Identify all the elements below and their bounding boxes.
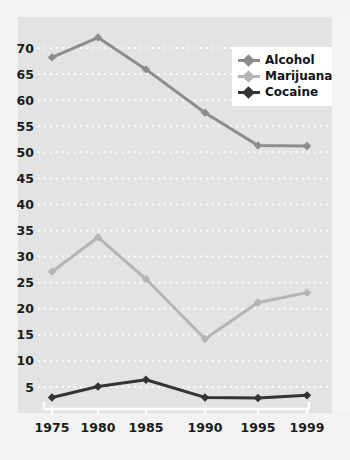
x-tick-1999: 1999 xyxy=(290,420,325,435)
y-tick-40: 40 xyxy=(17,197,35,212)
legend-label: Alcohol xyxy=(265,54,315,67)
data-point-cocaine-1985 xyxy=(142,375,150,383)
axis-lines xyxy=(44,402,309,414)
series-line-cocaine xyxy=(52,380,307,398)
legend-item-cocaine[interactable]: Cocaine xyxy=(232,84,332,100)
data-point-cocaine-1980 xyxy=(94,382,102,390)
data-point-alcohol-1999 xyxy=(303,142,311,150)
x-tick-1990: 1990 xyxy=(188,420,223,435)
y-tick-60: 60 xyxy=(17,93,35,108)
y-tick-35: 35 xyxy=(17,223,34,238)
data-point-alcohol-1975 xyxy=(48,53,56,61)
x-tick-1985: 1985 xyxy=(129,420,164,435)
y-tick-70: 70 xyxy=(17,41,35,56)
legend-marker-icon-marijuana xyxy=(238,70,260,82)
x-axis-tick-labels: 197519801985199019951999 xyxy=(35,420,325,435)
legend-marker-icon-alcohol xyxy=(238,54,260,66)
y-tick-55: 55 xyxy=(17,119,34,134)
y-tick-20: 20 xyxy=(17,301,35,316)
y-tick-45: 45 xyxy=(17,171,34,186)
series-line-marijuana xyxy=(52,237,307,339)
chart-legend: AlcoholMarijuanaCocaine xyxy=(232,47,332,106)
x-tick-1980: 1980 xyxy=(81,420,116,435)
legend-label: Cocaine xyxy=(265,86,318,99)
data-point-cocaine-1975 xyxy=(48,393,56,401)
y-axis-tick-labels: 706560555045403530252015105 xyxy=(17,41,35,395)
legend-diamond-icon xyxy=(242,86,255,99)
line-chart: 706560555045403530252015105 197519801985… xyxy=(0,0,350,460)
data-point-marijuana-1999 xyxy=(303,288,311,296)
legend-marker-icon-cocaine xyxy=(238,86,260,98)
legend-diamond-icon xyxy=(242,54,255,67)
data-point-cocaine-1995 xyxy=(254,394,262,402)
legend-item-alcohol[interactable]: Alcohol xyxy=(232,52,332,68)
y-tick-15: 15 xyxy=(17,327,34,342)
x-tick-1995: 1995 xyxy=(241,420,276,435)
y-tick-10: 10 xyxy=(17,353,35,368)
legend-diamond-icon xyxy=(242,70,255,83)
data-point-cocaine-1999 xyxy=(303,391,311,399)
data-point-cocaine-1990 xyxy=(201,393,209,401)
y-tick-30: 30 xyxy=(17,249,35,264)
x-tick-1975: 1975 xyxy=(35,420,70,435)
y-tick-65: 65 xyxy=(17,67,34,82)
legend-item-marijuana[interactable]: Marijuana xyxy=(232,68,332,84)
y-tick-5: 5 xyxy=(25,380,34,395)
y-tick-50: 50 xyxy=(17,145,35,160)
y-tick-25: 25 xyxy=(17,275,34,290)
legend-label: Marijuana xyxy=(265,70,332,83)
